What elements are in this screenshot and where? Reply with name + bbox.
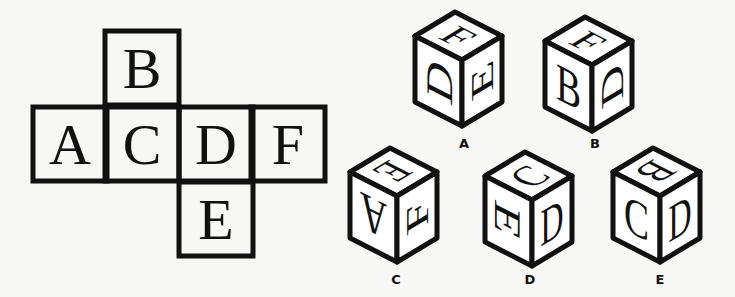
cube-puzzle-figure: BACDFE FDEAFBDBEAFCCEDDBCDE [0,0,735,297]
net-cell-a: A [33,107,107,181]
option-label: E [656,272,665,287]
net-cell-e: E [179,182,253,256]
net-letter: C [123,112,162,177]
option-cube-a[interactable]: FDEA [415,12,502,151]
option-cube-e[interactable]: BCDE [613,148,700,287]
net-letter: F [272,112,304,177]
option-label: C [391,272,401,287]
option-cube-c[interactable]: EAFC [350,148,437,287]
option-cube-b[interactable]: FBDB [545,17,632,151]
net-cell-f: F [251,107,325,181]
net-letter: D [195,112,237,177]
cube-net: BACDFE [33,31,325,256]
net-letter: A [49,112,91,177]
net-cell-c: C [105,107,179,181]
net-letter: B [123,36,162,101]
option-cube-d[interactable]: CEDD [485,152,572,287]
option-label: A [459,136,469,151]
answer-options: FDEAFBDBEAFCCEDDBCDE [350,12,700,287]
option-label: D [525,272,536,287]
net-cell-d: D [179,107,253,181]
option-label: B [590,136,600,151]
net-cell-b: B [105,31,179,105]
net-letter: E [198,187,233,252]
